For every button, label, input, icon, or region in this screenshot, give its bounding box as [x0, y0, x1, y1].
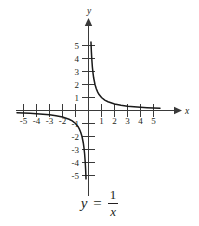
equation-equals-sign: =: [92, 196, 102, 211]
x-tick-label-4: 4: [138, 116, 143, 126]
equation-caption: y = 1 x: [0, 188, 199, 218]
y-tick-label--3: -3: [72, 145, 80, 155]
x-tick-label-5: 5: [151, 116, 156, 126]
x-axis-arrow-icon: [174, 107, 182, 114]
y-tick-label--4: -4: [72, 158, 80, 168]
equation-expression: y = 1 x: [81, 188, 119, 218]
y-tick-label-4: 4: [75, 54, 80, 64]
fraction-denominator: x: [108, 205, 118, 219]
y-tick-label-3: 3: [75, 67, 80, 77]
equation-fraction: 1 x: [108, 188, 119, 218]
x-axis-label: x: [184, 106, 190, 116]
y-tick-label-2: 2: [75, 80, 80, 90]
curve-branch-quadrant-1: [91, 42, 160, 108]
x-tick-label--5: -5: [20, 116, 28, 126]
y-tick-label--2: -2: [72, 132, 80, 142]
x-tick-label--4: -4: [33, 116, 41, 126]
y-axis-arrow-icon: [85, 18, 92, 26]
y-axis-label: y: [86, 6, 92, 16]
x-tick-label-3: 3: [125, 116, 130, 126]
x-tick-label-2: 2: [112, 116, 117, 126]
y-tick-label-1: 1: [75, 93, 80, 103]
fraction-numerator: 1: [108, 188, 119, 202]
x-tick-label-1: 1: [99, 116, 104, 126]
x-tick-label--3: -3: [46, 116, 54, 126]
equation-left-side: y: [81, 196, 88, 211]
y-tick-label-5: 5: [75, 41, 80, 51]
y-tick-label--5: -5: [72, 171, 80, 181]
figure-graph-of-reciprocal-function: -5 -4 -3 -2 1 2 3 4 5 5 4 3 2 1 -1 -2 -3…: [0, 0, 199, 226]
